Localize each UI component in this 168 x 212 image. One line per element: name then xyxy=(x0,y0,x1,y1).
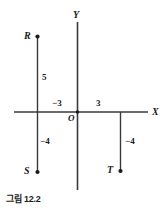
figure-caption: 그림 12.2 xyxy=(6,192,41,205)
measure-label-left-lower: −4 xyxy=(40,137,50,146)
measure-label-right-lower: −4 xyxy=(125,137,135,146)
point-label-r: R xyxy=(24,31,31,41)
point-s-dot xyxy=(35,170,39,174)
x-tick-label-positive-three: 3 xyxy=(96,99,101,108)
figure-container: R S T X Y O 5 −4 −4 −3 3 그림 12.2 xyxy=(0,0,168,212)
point-t-dot xyxy=(118,169,122,173)
x-axis-label: X xyxy=(152,107,159,117)
point-label-t: T xyxy=(107,165,113,175)
measure-label-left-upper: 5 xyxy=(42,73,47,82)
origin-label: O xyxy=(68,114,75,123)
x-tick-label-negative-three: −3 xyxy=(52,99,62,108)
point-r-dot xyxy=(35,34,39,38)
point-label-s: S xyxy=(24,166,30,176)
y-axis-label: Y xyxy=(73,10,79,20)
origin-dot xyxy=(76,110,79,113)
